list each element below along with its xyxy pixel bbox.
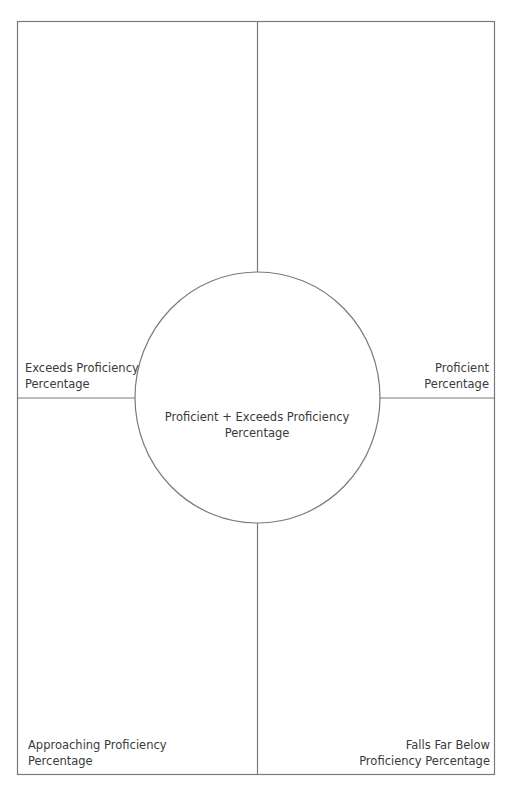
exceeds-proficiency-label: Exceeds Proficiency Percentage	[25, 360, 139, 392]
label-line: Approaching Proficiency	[28, 737, 167, 753]
label-line: Proficient + Exceeds Proficiency	[157, 409, 357, 425]
falls-far-below-label: Falls Far Below Proficiency Percentage	[359, 737, 490, 769]
center-circle	[135, 272, 380, 523]
proficient-label: Proficient Percentage	[424, 360, 489, 392]
label-line: Proficient	[424, 360, 489, 376]
label-line: Percentage	[25, 376, 139, 392]
label-line: Falls Far Below	[359, 737, 490, 753]
label-line: Percentage	[424, 376, 489, 392]
approaching-proficiency-label: Approaching Proficiency Percentage	[28, 737, 167, 769]
label-line: Exceeds Proficiency	[25, 360, 139, 376]
four-square-diagram	[0, 0, 515, 792]
label-line: Proficiency Percentage	[359, 753, 490, 769]
center-label: Proficient + Exceeds Proficiency Percent…	[157, 409, 357, 441]
label-line: Percentage	[28, 753, 167, 769]
label-line: Percentage	[157, 425, 357, 441]
